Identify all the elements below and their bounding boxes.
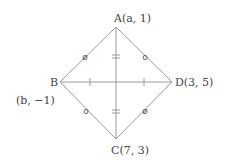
vertex-label-b-coords: (b, −1) (16, 94, 55, 107)
side-mark-dc: ø (142, 106, 148, 116)
side-mark-ad: o (142, 52, 148, 62)
side-mark-ab: ø (82, 52, 88, 62)
side-mark-bc: o (83, 106, 89, 116)
vertex-label-a: A(a, 1) (113, 12, 151, 25)
side-ab (60, 27, 116, 82)
vertex-label-d: D(3, 5) (175, 76, 213, 89)
rhombus-diagram: ø o o ø A(a, 1) B (b, −1) D(3, 5) C(7, 3… (0, 0, 227, 168)
vertex-label-b: B (50, 76, 58, 89)
vertex-label-c: C(7, 3) (111, 144, 149, 157)
